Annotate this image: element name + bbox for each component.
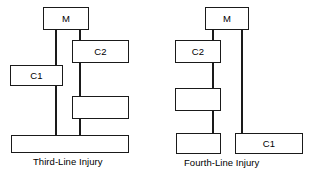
node-third-m[interactable]: M bbox=[43, 7, 89, 30]
node-fourth-unlabeled-bottom[interactable] bbox=[176, 133, 221, 154]
node-third-c1[interactable]: C1 bbox=[10, 65, 63, 86]
node-third-unlabeled[interactable] bbox=[72, 96, 129, 119]
caption-fourth-line-injury: Fourth-Line Injury bbox=[184, 158, 259, 168]
node-fourth-m[interactable]: M bbox=[205, 7, 249, 30]
node-third-c2[interactable]: C2 bbox=[72, 40, 129, 63]
node-third-base-bar[interactable] bbox=[11, 135, 129, 153]
diagram-fourth-line-injury: M C2 C1 Fourth-Line Injury bbox=[156, 0, 313, 178]
caption-third-line-injury: Third-Line Injury bbox=[33, 157, 103, 167]
node-fourth-c1[interactable]: C1 bbox=[235, 133, 303, 154]
diagram-third-line-injury: M C2 C1 Third-Line Injury bbox=[0, 0, 157, 178]
node-fourth-unlabeled-middle[interactable] bbox=[175, 88, 221, 111]
node-fourth-c2[interactable]: C2 bbox=[175, 40, 221, 63]
diagram-canvas: M C2 C1 Third-Line Injury M C2 C1 Fourth… bbox=[0, 0, 313, 178]
connector-fourth-right bbox=[241, 29, 243, 134]
